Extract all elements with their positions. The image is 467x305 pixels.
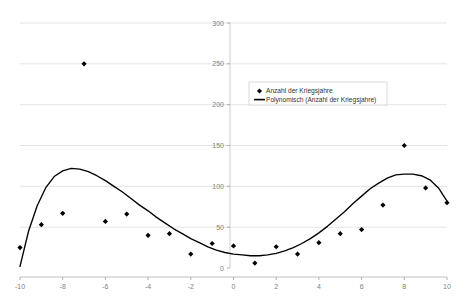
x-tick-label-2: 2 [274, 283, 278, 290]
y-tick-label-0: 0 [220, 265, 224, 272]
x-tick-label--8: -8 [60, 283, 66, 290]
chart-container: 300 250 200 150 100 50 0 -10 -8 [0, 0, 467, 305]
x-tick-label-10: 10 [443, 283, 451, 290]
y-tick-label-150: 150 [212, 142, 224, 149]
legend-label-series-trendline: Polynomisch (Anzahl der Kriegsjahre) [266, 96, 376, 104]
y-tick-label-250: 250 [212, 60, 224, 67]
x-tick-label--4: -4 [145, 283, 151, 290]
legend-label-series-scatter: Anzahl der Kriegsjahre [266, 87, 333, 95]
x-tick-label-0: 0 [232, 283, 236, 290]
plot-background [0, 0, 467, 305]
x-tick-label-6: 6 [360, 283, 364, 290]
y-tick-label-50: 50 [216, 224, 224, 231]
y-tick-label-300: 300 [212, 20, 224, 27]
scatter-plot-with-polynomial-trendline: 300 250 200 150 100 50 0 -10 -8 [0, 0, 467, 305]
y-tick-label-100: 100 [212, 183, 224, 190]
legend: Anzahl der Kriegsjahre Polynomisch (Anza… [249, 82, 387, 105]
x-tick-label--6: -6 [102, 283, 108, 290]
x-tick-label--10: -10 [15, 283, 25, 290]
x-tick-label-4: 4 [317, 283, 321, 290]
y-tick-label-200: 200 [212, 101, 224, 108]
x-tick-label--2: -2 [188, 283, 194, 290]
x-tick-label-8: 8 [402, 283, 406, 290]
